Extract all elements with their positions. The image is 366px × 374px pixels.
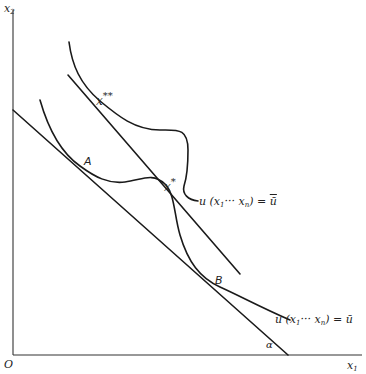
point-b-label: B — [215, 275, 223, 286]
origin-label: O — [4, 359, 13, 370]
lower-budget-line — [13, 110, 288, 355]
angle-alpha-label: α — [266, 340, 273, 350]
point-x-double-star-label: x** — [96, 91, 113, 107]
lower-curve-label: u (x1··· xn) = ū — [275, 314, 353, 327]
upper-curve-label: u (x1··· xn) = ū — [199, 196, 277, 209]
lower-indifference-curve — [40, 100, 290, 320]
point-a-label: A — [84, 156, 92, 167]
y-axis-label: x2 — [4, 3, 15, 16]
x-axis-label: x1 — [347, 360, 358, 373]
point-x-star-label: x* — [164, 177, 176, 193]
